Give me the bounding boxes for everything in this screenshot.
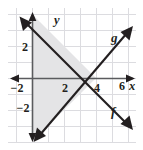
graph-figure: y x −2 2 4 6 2 −2 g f — [0, 0, 143, 150]
x-axis-label: x — [128, 79, 135, 93]
y-tick-label--2: −2 — [17, 101, 30, 115]
x-tick-label-4: 4 — [94, 81, 100, 95]
x-tick-label-2: 2 — [62, 81, 68, 95]
x-tick-label-6: 6 — [119, 79, 125, 93]
series-label-g: g — [110, 30, 118, 45]
coordinate-plane-svg: y x −2 2 4 6 2 −2 g f — [0, 0, 143, 150]
y-tick-label-2: 2 — [22, 40, 28, 54]
x-tick-label--2: −2 — [11, 81, 24, 95]
y-axis-label: y — [52, 13, 60, 27]
